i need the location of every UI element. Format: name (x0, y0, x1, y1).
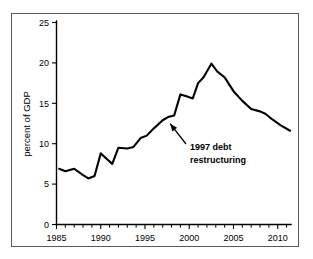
x-tick-label-1985: 1985 (46, 233, 66, 243)
x-tick-label-2005: 2005 (223, 233, 243, 243)
x-tick-label-2010: 2010 (268, 233, 288, 243)
y-axis-title: percent of GDP (21, 91, 32, 156)
data-series-line (59, 64, 290, 179)
x-axis-tick-labels: 198519901995200020052010 (46, 233, 287, 243)
y-tick-label-15: 15 (39, 99, 49, 109)
y-tick-label-0: 0 (44, 220, 49, 230)
annotation-label-line2: restructuring (190, 155, 246, 165)
y-tick-label-10: 10 (39, 139, 49, 149)
line-chart: percent of GDP 0 5 10 15 20 25 198519901… (0, 0, 313, 259)
y-tick-label-25: 25 (39, 18, 49, 28)
chart-figure: percent of GDP 0 5 10 15 20 25 198519901… (0, 0, 313, 259)
y-axis-ticks: 0 5 10 15 20 25 (39, 18, 57, 230)
x-tick-label-2000: 2000 (179, 233, 199, 243)
x-tick-label-1990: 1990 (91, 233, 111, 243)
x-tick-label-1995: 1995 (135, 233, 155, 243)
y-tick-label-20: 20 (39, 58, 49, 68)
annotation-arrow (170, 124, 186, 144)
y-tick-label-5: 5 (44, 179, 49, 189)
annotation-label-line1: 1997 debt (190, 142, 232, 152)
